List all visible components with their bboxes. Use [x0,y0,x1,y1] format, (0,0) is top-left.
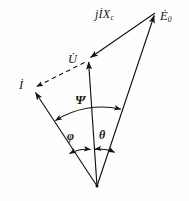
origin-point [96,185,99,188]
label-e0-text: Ė [160,9,168,23]
label-phi-angle: φ [67,130,74,142]
label-psi-angle: Ψ [75,93,85,106]
label-i: İ [19,79,23,92]
label-u: U̇ [68,53,77,66]
vector-e0-line [97,16,154,187]
phasor-diagram-figure: jİXc Ė0 U̇ İ Ψ φ θ [0,0,189,201]
vector-u-line [89,62,97,186]
label-theta-angle: θ [99,129,105,141]
label-e0-subscript: 0 [168,15,172,24]
phasor-diagram-canvas [0,0,189,201]
label-jixc: jİXc [95,8,114,20]
label-jixc-text: jİX [95,7,110,21]
angle-arc-theta [95,149,115,152]
dashed-projection-line [37,63,85,87]
label-jixc-subscript: c [110,13,114,22]
angle-arc-psi [55,107,120,121]
label-e0: Ė0 [160,10,172,23]
